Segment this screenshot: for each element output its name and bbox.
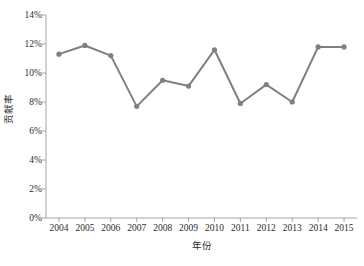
x-tick-label: 2014 [309,222,328,234]
data-point [160,78,165,83]
x-tick-label: 2005 [75,222,94,234]
data-point [316,44,321,49]
data-point [108,53,113,58]
data-point [212,47,217,52]
data-point [186,83,191,88]
x-tick-label: 2004 [49,222,68,234]
y-tick-label: 10% [4,68,42,78]
data-point [134,104,139,109]
line-chart: 0%2%4%6%8%10%12%14% 20042005200620072008… [0,0,364,266]
x-tick-label: 2008 [153,222,172,234]
data-point [238,101,243,106]
data-point [341,44,346,49]
data-point [56,52,61,57]
x-tick-label: 2011 [231,222,250,234]
y-tick-label: 12% [4,39,42,49]
data-point [264,82,269,87]
data-point [82,43,87,48]
x-tick-label: 2012 [257,222,276,234]
data-point [290,99,295,104]
x-axis-title: 年份 [46,238,357,252]
data-series-line [59,45,344,106]
x-tick-label: 2009 [179,222,198,234]
y-axis-title: 贡献率 [1,79,15,139]
y-tick-label: 2% [4,184,42,194]
data-point-markers [56,43,346,109]
x-tick-label: 2010 [205,222,224,234]
y-tick-label: 4% [4,155,42,165]
y-tick-label: 0% [4,213,42,223]
x-tick-label: 2006 [101,222,120,234]
x-tick-label: 2007 [127,222,146,234]
x-tick-label: 2015 [335,222,354,234]
y-axis-ticks [42,15,46,218]
x-tick-label: 2013 [283,222,302,234]
x-axis-tick-labels: 2004200520062007200820092010201120122013… [46,222,357,236]
y-tick-label: 14% [4,10,42,20]
